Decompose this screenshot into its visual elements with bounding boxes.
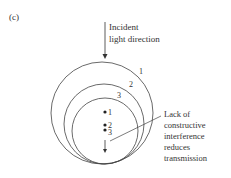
circle-label-1: 1 xyxy=(139,67,143,76)
incident-label-line1: Incident xyxy=(109,22,139,32)
annotation-line-3: interference xyxy=(164,131,205,141)
circle-label-2: 2 xyxy=(129,80,133,89)
incident-arrow-head-icon xyxy=(103,54,108,59)
panel-label: (c) xyxy=(9,12,19,22)
annotation-line-5: transmission xyxy=(164,153,208,163)
annotation-line-2: constructive xyxy=(164,120,206,130)
wavefront-circle-1 xyxy=(51,62,153,164)
point-3 xyxy=(103,128,106,131)
point-label-3: 3 xyxy=(108,128,112,137)
circle-label-3: 3 xyxy=(117,91,121,100)
annotation-line-1: Lack of xyxy=(164,109,190,119)
incident-label-line2: light direction xyxy=(109,34,160,44)
point-label-1: 1 xyxy=(108,108,112,117)
point-1 xyxy=(103,110,106,113)
transmission-arrow-head-icon xyxy=(103,149,107,153)
annotation-line-4: reduces xyxy=(164,142,190,152)
annotation-leader-line xyxy=(110,116,161,141)
diagram: (c) Incident light direction 1 2 3 1 2 3… xyxy=(0,0,231,178)
point-2 xyxy=(103,123,106,126)
